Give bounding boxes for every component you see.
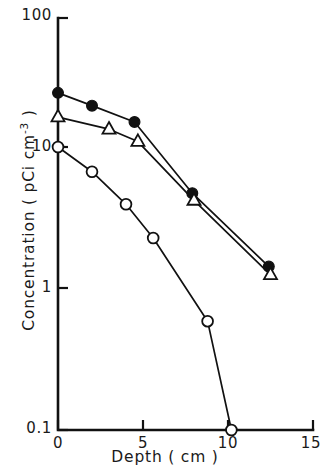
- data-series-layer: [52, 87, 278, 435]
- y-tick-marks: [58, 18, 68, 430]
- y-axis-title: Concentration ( pCi cm-3 ): [18, 100, 38, 340]
- marker-open-circle: [202, 316, 213, 327]
- y-axis-title-close: ): [20, 109, 38, 122]
- marker-open-circle: [87, 166, 98, 177]
- chart-figure: 100 10 1 0.1 0 5 10 15 Depth ( cm ) Conc…: [0, 0, 330, 475]
- plot-canvas: [0, 0, 330, 475]
- marker-open-triangle: [52, 110, 65, 122]
- axis-frame: [58, 18, 313, 430]
- x-tick-marks: [58, 420, 313, 430]
- x-axis-title: Depth ( cm ): [0, 448, 330, 466]
- marker-filled-circle: [87, 100, 98, 111]
- y-axis-title-exponent: -3: [18, 122, 30, 134]
- y-axis-title-main: Concentration ( pCi cm: [20, 134, 38, 331]
- marker-open-circle: [53, 142, 64, 153]
- series-line-open-triangle-series: [58, 117, 271, 275]
- series-open-circle-series: [53, 142, 237, 436]
- marker-filled-circle: [129, 117, 140, 128]
- y-tick-label-100: 100: [2, 6, 52, 24]
- marker-open-circle: [121, 199, 132, 210]
- series-filled-circle-series: [53, 87, 275, 271]
- series-line-open-circle-series: [58, 147, 231, 430]
- marker-filled-circle: [53, 87, 64, 98]
- marker-open-circle: [148, 233, 159, 244]
- series-line-filled-circle-series: [58, 93, 269, 267]
